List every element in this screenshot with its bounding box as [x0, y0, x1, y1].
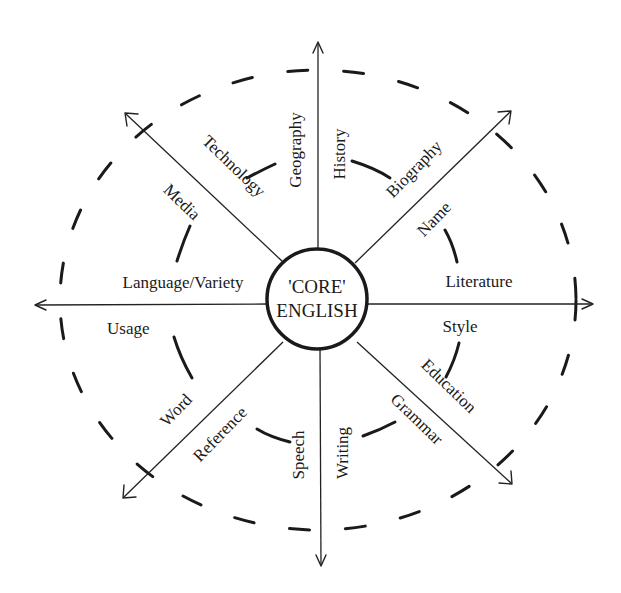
label-writing: Writing: [333, 426, 352, 479]
label-literature: Literature: [445, 272, 512, 291]
label-language-variety: Language/Variety: [123, 273, 244, 292]
label-biography: Biography: [382, 136, 446, 201]
arc-history-biography: [352, 161, 390, 178]
axis-west: [36, 304, 267, 305]
label-media: Media: [160, 180, 205, 224]
label-style: Style: [443, 317, 478, 336]
arc-grammar-writing: [363, 422, 395, 436]
label-reference: Reference: [189, 403, 251, 466]
core-label-line1: 'CORE': [288, 276, 346, 297]
label-education: Education: [417, 355, 480, 417]
label-grammar: Grammar: [387, 390, 447, 449]
arc-name-literature: [445, 230, 457, 262]
core-english-node: 'CORE' ENGLISH: [267, 249, 367, 349]
label-speech: Speech: [289, 430, 308, 480]
label-usage: Usage: [107, 319, 149, 338]
axis-south: [320, 348, 321, 565]
arc-media-language: [177, 226, 190, 261]
axis-south-west: [124, 342, 283, 497]
arc-reference-speech: [257, 429, 290, 442]
label-geography: Geography: [286, 112, 305, 188]
label-technology: Technology: [198, 131, 269, 201]
axis-north-east: [355, 112, 510, 263]
arc-usage-word: [174, 337, 192, 378]
core-english-diagram: 'CORE' ENGLISH History Geography Technol…: [0, 0, 621, 593]
label-word: Word: [156, 390, 196, 430]
label-history: History: [330, 128, 349, 180]
core-label-line2: ENGLISH: [276, 300, 358, 321]
